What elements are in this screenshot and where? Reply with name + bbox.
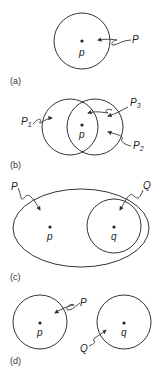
point-label-p: p: [46, 231, 53, 242]
point-label-p: p: [78, 47, 85, 58]
neighborhood-diagram: p P (a) p P1 P3 P2 (b) p q P Q (c): [0, 0, 161, 370]
caption-c: (c): [10, 272, 21, 282]
point-dot-p: [48, 225, 51, 228]
point-label-p: p: [78, 129, 85, 140]
point-dot-p: [80, 39, 83, 42]
pointer-arrow-P: [98, 39, 131, 45]
region-label-P: P: [80, 297, 87, 308]
caption-b: (b): [10, 160, 21, 170]
caption-d: (d): [10, 356, 21, 366]
region-circle-left: [42, 99, 98, 155]
point-label-q: q: [121, 327, 127, 338]
region-label-P1: P1: [21, 116, 32, 128]
point-dot-q: [112, 225, 115, 228]
panel-b: p P1 P3 P2 (b): [10, 97, 144, 170]
caption-a: (a): [10, 76, 21, 86]
panel-d: p P q Q (d): [10, 295, 151, 366]
region-label-Q: Q: [80, 343, 88, 354]
point-dot-p: [38, 321, 41, 324]
pointer-arrow-Q: [120, 190, 143, 210]
pointer-arrow-Q: [89, 330, 106, 346]
region-label-Q: Q: [143, 180, 151, 191]
pointer-arrow-P: [55, 303, 80, 313]
region-circle-right: [67, 99, 123, 155]
pointer-arrow-P2: [108, 132, 131, 146]
panel-c: p q P Q (c): [10, 180, 151, 282]
pointer-arrow-P3-left: [88, 109, 112, 113]
pointer-arrow-P: [18, 188, 40, 210]
region-label-P: P: [11, 181, 18, 192]
region-label-P2: P2: [133, 140, 144, 152]
region-label-P3: P3: [130, 97, 141, 109]
point-dot-q: [122, 321, 125, 324]
point-dot-p: [80, 123, 83, 126]
region-ellipse-P: [13, 189, 149, 267]
point-label-p: p: [36, 327, 43, 338]
point-label-q: q: [111, 231, 117, 242]
region-label-P: P: [132, 34, 139, 45]
panel-a: p P (a): [10, 13, 139, 86]
